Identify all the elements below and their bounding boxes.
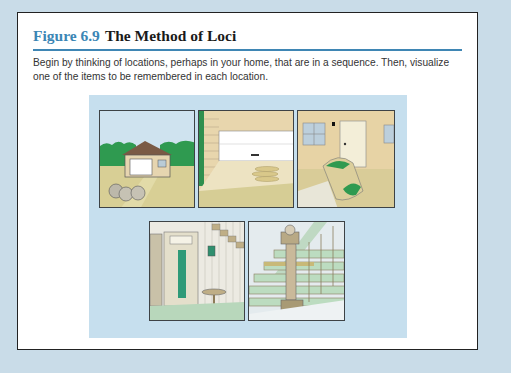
figure-title-row: Figure 6.9The Method of Loci <box>33 25 462 51</box>
panel-closet <box>149 221 245 321</box>
figure-number: Figure 6.9 <box>33 27 100 44</box>
panel-staircase <box>248 221 345 321</box>
panel-house-exterior <box>99 110 195 208</box>
staircase-icon <box>249 222 345 321</box>
house-exterior-icon <box>100 111 195 208</box>
method-of-loci-illustration <box>89 95 407 338</box>
figure-title: The Method of Loci <box>105 27 236 44</box>
garage-icon <box>199 111 294 208</box>
panel-garage <box>198 110 294 208</box>
panel-entrance <box>297 110 395 208</box>
figure-caption: Begin by thinking of locations, perhaps … <box>33 56 468 84</box>
figure-card: Figure 6.9The Method of Loci Begin by th… <box>17 12 478 350</box>
closet-icon <box>150 222 245 321</box>
entrance-icon <box>298 111 395 208</box>
